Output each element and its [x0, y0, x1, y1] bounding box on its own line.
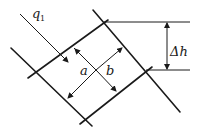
flow-net-diagram: q 1 a b Δh: [0, 0, 203, 134]
label-b: b: [106, 63, 114, 78]
label-delta-h: Δh: [169, 44, 188, 59]
flow-line-left: [11, 48, 92, 126]
label-a: a: [80, 63, 88, 78]
label-q-subscript: 1: [40, 14, 45, 23]
